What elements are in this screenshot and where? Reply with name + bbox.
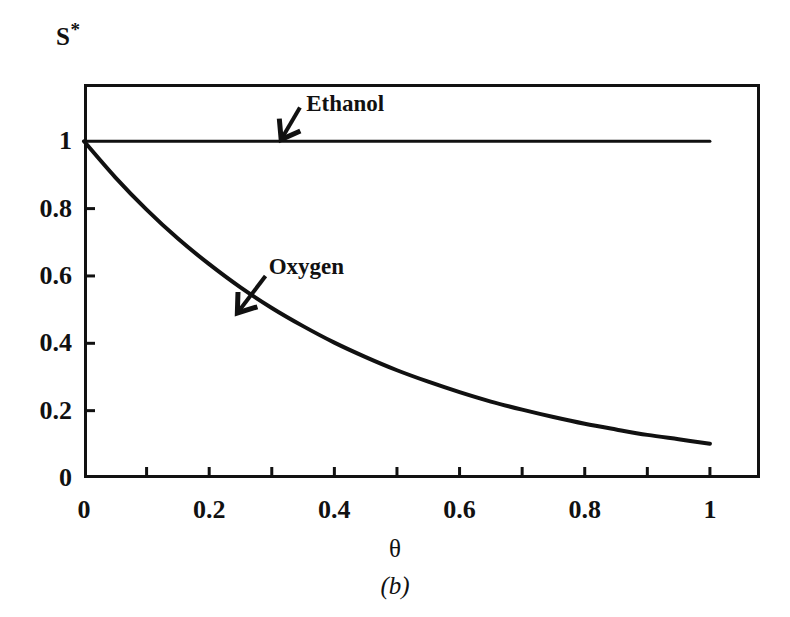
x-tick-label: 0.4 [318,497,351,523]
y-tick-label: 0.2 [0,398,72,424]
figure-panel: S* EthanolOxygen00.20.40.60.8100.20.40.6… [0,0,790,617]
y-axis-caption-symbol: S [56,23,70,50]
annotation-label-oxygen: Oxygen [269,255,344,278]
x-tick-label: 1 [703,497,716,523]
x-tick-label: 0.8 [568,497,601,523]
y-tick-label: 0 [0,465,72,491]
y-tick-label: 0.4 [0,330,72,356]
plot-frame [84,84,760,478]
y-axis-caption-star: * [70,19,80,40]
figure-caption: (b) [0,573,790,598]
x-axis-title: θ [0,536,790,561]
x-tick-label: 0.2 [193,497,226,523]
y-tick-label: 0.6 [0,263,72,289]
y-axis-caption: S* [56,24,80,49]
y-tick-label: 1 [0,128,72,154]
y-tick-label: 0.8 [0,196,72,222]
x-tick-label: 0.6 [443,497,476,523]
annotation-label-ethanol: Ethanol [306,92,384,115]
x-tick-label: 0 [78,497,91,523]
